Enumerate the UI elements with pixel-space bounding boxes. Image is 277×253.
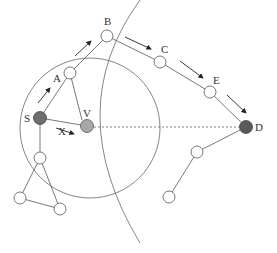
network-diagram: S V A B C E D X [0, 0, 277, 253]
arrow-icon [227, 95, 246, 113]
arrow-icon [125, 37, 151, 49]
arrow-icon [75, 41, 91, 56]
node-a [64, 67, 76, 79]
label-d: D [255, 121, 263, 133]
label-b: B [104, 15, 111, 27]
arrow-icon [180, 61, 203, 78]
node-e [204, 86, 216, 98]
node-v-virtual [81, 120, 94, 133]
node-c [154, 56, 166, 68]
node-d-destination [240, 121, 253, 134]
label-x: X [58, 125, 66, 137]
arrow-icon [38, 88, 50, 103]
label-v: V [83, 107, 91, 119]
label-s: S [24, 112, 30, 124]
label-c: C [161, 43, 168, 55]
label-e: E [213, 74, 220, 86]
node-b [101, 30, 113, 42]
node-s-source [34, 112, 47, 125]
label-a: A [53, 72, 61, 84]
other-nodes [14, 146, 203, 215]
